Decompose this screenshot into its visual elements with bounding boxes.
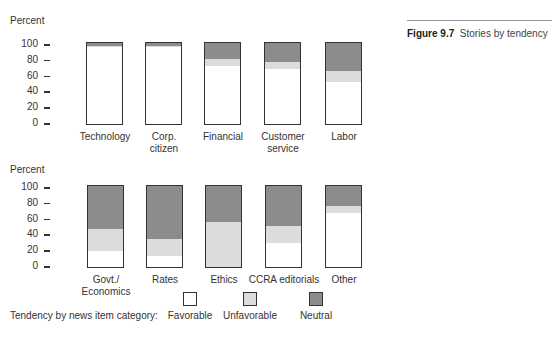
legend-swatch-unfavorable [243, 292, 257, 306]
y-axis-label: Percent [10, 164, 44, 175]
y-tick-label: 40 [16, 85, 38, 96]
bar-segment-favorable [326, 213, 361, 267]
stacked-bar [204, 42, 241, 125]
stacked-bar [145, 42, 182, 125]
y-tick-label: 0 [16, 260, 38, 271]
caption-rule [407, 20, 552, 21]
y-tick-mark [44, 91, 50, 93]
y-tick-label: 80 [16, 54, 38, 65]
bar-segment-favorable [205, 66, 240, 124]
bar-segment-unfavorable [266, 226, 301, 243]
figure-title: Stories by tendency [460, 28, 548, 39]
bar-segment-neutral [147, 186, 182, 239]
legend-swatch-favorable [183, 292, 197, 306]
bar-segment-favorable [326, 82, 361, 124]
y-tick-mark [44, 187, 50, 189]
y-tick-mark [44, 250, 50, 252]
category-label: Labor [304, 131, 384, 143]
y-tick-label: 100 [16, 181, 38, 192]
y-tick-label: 100 [16, 38, 38, 49]
stacked-bar [87, 185, 124, 268]
legend-swatch-neutral [309, 292, 323, 306]
bar-segment-neutral [87, 43, 122, 46]
bar-segment-neutral [146, 43, 181, 46]
y-tick-label: 40 [16, 228, 38, 239]
y-tick-mark [44, 266, 50, 268]
stacked-bar [264, 42, 301, 125]
y-tick-label: 20 [16, 101, 38, 112]
bar-segment-favorable [147, 256, 182, 267]
bar-segment-favorable [88, 251, 123, 267]
bar-segment-neutral [205, 43, 240, 59]
bar-segment-unfavorable [205, 59, 240, 65]
y-tick-mark [44, 123, 50, 125]
bar-segment-unfavorable [147, 239, 182, 256]
bar-segment-unfavorable [326, 206, 361, 212]
legend-label-neutral: Neutral [276, 310, 356, 321]
bar-segment-favorable [87, 47, 122, 124]
bar-segment-neutral [266, 186, 301, 226]
stacked-bar [146, 185, 183, 268]
bar-segment-neutral [88, 186, 123, 229]
y-tick-label: 80 [16, 197, 38, 208]
bar-segment-unfavorable [88, 229, 123, 251]
figure-caption: Figure 9.7 Stories by tendency [407, 28, 556, 40]
y-tick-mark [44, 44, 50, 46]
bar-segment-favorable [265, 69, 300, 124]
figure-number: Figure 9.7 [407, 28, 454, 39]
bar-segment-unfavorable [87, 46, 122, 47]
y-tick-mark [44, 60, 50, 62]
stacked-bar [265, 185, 302, 268]
bar-segment-neutral [265, 43, 300, 62]
y-tick-mark [44, 107, 50, 109]
y-tick-mark [44, 76, 50, 78]
y-tick-label: 0 [16, 117, 38, 128]
stacked-bar [205, 185, 242, 268]
bar-segment-neutral [326, 43, 361, 71]
bar-segment-unfavorable [326, 71, 361, 82]
bar-segment-unfavorable [146, 46, 181, 47]
y-tick-label: 60 [16, 70, 38, 81]
y-tick-mark [44, 219, 50, 221]
stacked-bar [86, 42, 123, 125]
y-tick-mark [44, 203, 50, 205]
category-label: Other [304, 274, 384, 286]
y-tick-label: 20 [16, 244, 38, 255]
stacked-bar [325, 42, 362, 125]
bar-segment-favorable [266, 243, 301, 267]
y-tick-label: 60 [16, 213, 38, 224]
bar-segment-unfavorable [206, 222, 241, 267]
bar-segment-neutral [206, 186, 241, 222]
y-tick-mark [44, 234, 50, 236]
legend-title: Tendency by news item category: [10, 310, 158, 321]
bar-segment-neutral [326, 186, 361, 206]
stacked-bar [325, 185, 362, 268]
bar-segment-unfavorable [265, 62, 300, 69]
bar-segment-favorable [146, 47, 181, 124]
y-axis-label: Percent [10, 15, 44, 26]
